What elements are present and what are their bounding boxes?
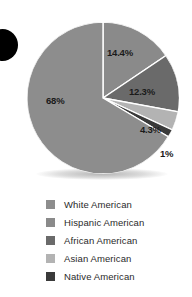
legend-item-african-american[interactable]: African American xyxy=(46,231,192,249)
pie-value-label-native: 1% xyxy=(160,148,173,159)
legend-swatch-icon xyxy=(46,200,55,209)
legend-item-label: Asian American xyxy=(64,253,131,264)
legend-item-label: White American xyxy=(64,199,132,210)
chart-legend: White American Hispanic American African… xyxy=(46,195,192,285)
legend-swatch-icon xyxy=(46,272,55,281)
legend-item-white-american[interactable]: White American xyxy=(46,195,192,213)
legend-item-hispanic-american[interactable]: Hispanic American xyxy=(46,213,192,231)
legend-swatch-icon xyxy=(46,254,55,263)
legend-swatch-icon xyxy=(46,218,55,227)
pie-value-label-white: 68% xyxy=(46,95,64,106)
legend-item-native-american[interactable]: Native American xyxy=(46,267,192,285)
legend-item-label: African American xyxy=(64,235,137,246)
legend-item-label: Native American xyxy=(64,271,135,282)
pie-value-label-african: 12.3% xyxy=(129,86,155,97)
pie-chart: 68% 14.4% 12.3% 4.3% 1% xyxy=(0,0,192,190)
pie-value-label-hispanic: 14.4% xyxy=(107,47,133,58)
legend-swatch-icon xyxy=(46,236,55,245)
legend-item-label: Hispanic American xyxy=(64,217,144,228)
legend-item-asian-american[interactable]: Asian American xyxy=(46,249,192,267)
pie-value-label-asian: 4.3% xyxy=(140,124,161,135)
